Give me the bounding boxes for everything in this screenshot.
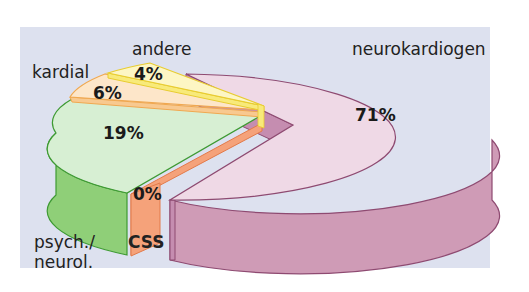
percent-css: 0% bbox=[133, 184, 162, 204]
label-psych-line1: psych./ bbox=[34, 233, 95, 252]
percent-kardial: 6% bbox=[93, 83, 122, 103]
slice-andere-edge-wall bbox=[258, 104, 264, 128]
label-neurokardiogen: neurokardiogen bbox=[352, 40, 486, 59]
label-psych-line2: neurol. bbox=[34, 253, 93, 272]
percent-psych-neurol: 19% bbox=[103, 123, 144, 143]
slice-neurokardiogen-front-wall bbox=[170, 200, 175, 260]
percent-neurokardiogen: 71% bbox=[355, 105, 396, 125]
label-andere: andere bbox=[132, 40, 192, 59]
percent-andere: 4% bbox=[134, 64, 163, 84]
label-css: CSS bbox=[128, 233, 165, 252]
label-kardial: kardial bbox=[32, 63, 89, 82]
